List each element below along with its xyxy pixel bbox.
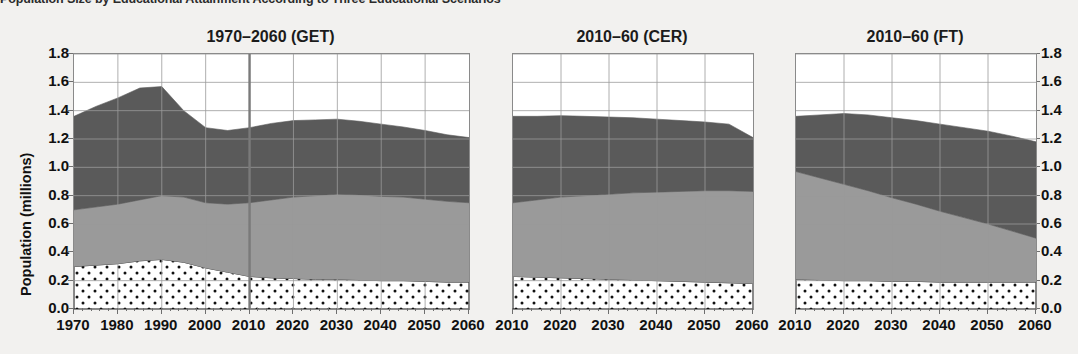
y-axis-tick-label: 1.0 <box>33 157 69 174</box>
x-axis-minor-tick <box>284 308 285 311</box>
area-band-high-education <box>74 87 469 210</box>
y-axis-tick-label: 0.0 <box>1041 299 1077 316</box>
y-axis-tick-label: 1.6 <box>1041 72 1077 89</box>
x-axis-minor-tick <box>178 308 179 311</box>
x-axis-minor-tick <box>833 308 834 311</box>
x-axis-minor-tick <box>231 308 232 311</box>
x-axis-minor-tick <box>910 308 911 311</box>
x-axis-minor-tick <box>872 308 873 311</box>
x-axis-minor-tick <box>319 308 320 311</box>
y-axis-tick-label: 0.6 <box>33 214 69 231</box>
y-axis-tick-label: 0.8 <box>33 186 69 203</box>
area-band-low-education <box>796 279 1036 309</box>
x-axis-minor-tick <box>196 308 197 311</box>
x-axis-tick-mark <box>1035 308 1036 314</box>
x-axis-tick-label: 2030 <box>311 316 361 333</box>
x-axis-minor-tick <box>82 308 83 311</box>
x-axis-tick-label: 2040 <box>914 316 964 333</box>
y-axis-tick-label: 0.4 <box>33 242 69 259</box>
x-axis-minor-tick <box>442 308 443 311</box>
x-axis-tick-label: 2050 <box>399 316 449 333</box>
y-axis-tick-label: 0.8 <box>1041 186 1077 203</box>
x-axis-minor-tick <box>733 308 734 311</box>
x-axis-minor-tick <box>1016 308 1017 311</box>
y-axis-tick-label: 1.2 <box>33 129 69 146</box>
x-axis-tick-label: 1990 <box>136 316 186 333</box>
y-axis-tick-label: 0.2 <box>33 271 69 288</box>
x-axis-tick-label: 2010 <box>770 316 820 333</box>
x-axis-tick-label: 2030 <box>583 316 633 333</box>
x-axis-tick-label: 2020 <box>267 316 317 333</box>
x-axis-minor-tick <box>550 308 551 311</box>
x-axis-minor-tick <box>328 308 329 311</box>
y-axis-tick-label: 1.8 <box>33 44 69 61</box>
panel-title-2: 2010–60 (CER) <box>512 28 752 46</box>
x-axis-minor-tick <box>627 308 628 311</box>
panel-title-1: 1970–2060 (GET) <box>73 28 468 46</box>
x-axis-minor-tick <box>99 308 100 311</box>
x-axis-minor-tick <box>637 308 638 311</box>
x-axis-minor-tick <box>134 308 135 311</box>
x-axis-minor-tick <box>459 308 460 311</box>
x-axis-tick-label: 2040 <box>631 316 681 333</box>
x-axis-tick-mark <box>704 308 705 314</box>
x-axis-minor-tick <box>152 308 153 311</box>
y-axis-tick-label: 1.4 <box>1041 101 1077 118</box>
x-axis-minor-tick <box>108 308 109 311</box>
x-axis-minor-tick <box>881 308 882 311</box>
x-axis-minor-tick <box>920 308 921 311</box>
x-axis-minor-tick <box>407 308 408 311</box>
x-axis-minor-tick <box>862 308 863 311</box>
y-axis-tick-label: 0.0 <box>33 299 69 316</box>
y-axis-tick-label: 0.6 <box>1041 214 1077 231</box>
x-axis-tick-mark <box>424 308 425 314</box>
x-axis-tick-label: 2060 <box>1010 316 1060 333</box>
y-axis-tick-label: 1.0 <box>1041 157 1077 174</box>
x-axis-minor-tick <box>1025 308 1026 311</box>
x-axis-tick-mark <box>795 308 796 314</box>
x-axis-minor-tick <box>694 308 695 311</box>
x-axis-minor-tick <box>805 308 806 311</box>
x-axis-minor-tick <box>541 308 542 311</box>
x-axis-tick-label: 2020 <box>535 316 585 333</box>
x-axis-minor-tick <box>266 308 267 311</box>
x-axis-minor-tick <box>570 308 571 311</box>
x-axis-tick-label: 2060 <box>443 316 493 333</box>
panel-title-3: 2010–60 (FT) <box>795 28 1035 46</box>
y-axis-tick-label: 1.2 <box>1041 129 1077 146</box>
x-axis-minor-tick <box>853 308 854 311</box>
x-axis-minor-tick <box>371 308 372 311</box>
x-axis-tick-mark <box>608 308 609 314</box>
y-axis-tick-label: 1.4 <box>33 101 69 118</box>
x-axis-minor-tick <box>240 308 241 311</box>
x-axis-minor-tick <box>675 308 676 311</box>
plot-area-1 <box>73 53 470 310</box>
x-axis-minor-tick <box>824 308 825 311</box>
x-axis-minor-tick <box>723 308 724 311</box>
x-axis-minor-tick <box>143 308 144 311</box>
x-axis-minor-tick <box>646 308 647 311</box>
x-axis-minor-tick <box>714 308 715 311</box>
x-axis-minor-tick <box>257 308 258 311</box>
x-axis-minor-tick <box>685 308 686 311</box>
x-axis-tick-mark <box>161 308 162 314</box>
x-axis-tick-label: 2030 <box>866 316 916 333</box>
x-axis-tick-mark <box>336 308 337 314</box>
x-axis-minor-tick <box>354 308 355 311</box>
x-axis-tick-label: 2050 <box>679 316 729 333</box>
x-axis-minor-tick <box>91 308 92 311</box>
x-axis-tick-label: 2010 <box>224 316 274 333</box>
x-axis-tick-mark <box>249 308 250 314</box>
area-band-medium-education <box>513 191 753 284</box>
x-axis-minor-tick <box>126 308 127 311</box>
y-axis-tick-label: 1.8 <box>1041 44 1077 61</box>
x-axis-tick-mark <box>656 308 657 314</box>
plot-area-2 <box>512 53 754 310</box>
x-axis-tick-mark <box>512 308 513 314</box>
x-axis-minor-tick <box>618 308 619 311</box>
x-axis-tick-mark <box>292 308 293 314</box>
x-axis-minor-tick <box>170 308 171 311</box>
x-axis-minor-tick <box>589 308 590 311</box>
x-axis-tick-mark <box>752 308 753 314</box>
x-axis-tick-mark <box>117 308 118 314</box>
